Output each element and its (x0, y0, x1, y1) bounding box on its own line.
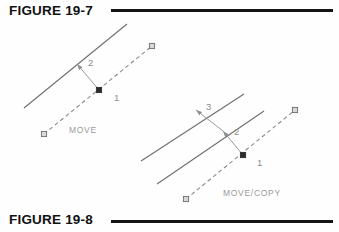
point-label-3: 3 (206, 101, 211, 112)
object-line-1 (24, 24, 127, 108)
point-label-2: 2 (88, 57, 93, 68)
command-label: MOVE/COPY (223, 188, 281, 198)
endpoint-grip-2 (292, 107, 297, 112)
diagram-move-copy: 231MOVE/COPY (141, 94, 298, 202)
object-line-2 (157, 111, 264, 184)
endpoint-grip-1 (183, 196, 188, 201)
leader-line-2 (223, 131, 243, 155)
endpoint-grip-2 (149, 43, 154, 48)
diagram-move: 21MOVE (24, 24, 155, 137)
base-point-grip (96, 87, 101, 92)
point-label-1: 1 (114, 92, 119, 103)
point-label-1: 1 (257, 157, 262, 168)
point-label-2: 2 (234, 126, 239, 137)
base-point-grip (240, 152, 245, 157)
command-label: MOVE (69, 125, 97, 135)
figure-page: FIGURE 19-7 FIGURE 19-8 21MOVE 231MOVE/C… (0, 0, 339, 232)
endpoint-grip-1 (41, 131, 46, 136)
cad-illustration: 21MOVE 231MOVE/COPY (0, 0, 339, 232)
leader-line-3 (196, 110, 223, 131)
object-line-1 (141, 94, 244, 161)
